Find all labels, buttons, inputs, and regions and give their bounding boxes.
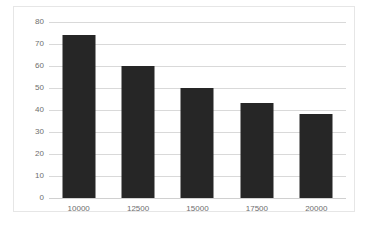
gridline [49, 198, 346, 199]
y-axis-tick-label: 40 [35, 106, 44, 114]
bar[interactable] [300, 114, 333, 198]
y-axis-tick-label: 30 [35, 128, 44, 136]
x-axis-tick-label: 10000 [68, 205, 90, 213]
bar-slot: 15000 [168, 22, 227, 198]
bar[interactable] [62, 35, 95, 198]
bar[interactable] [181, 88, 214, 198]
y-axis-tick-label: 0 [40, 194, 44, 202]
y-axis-tick-label: 80 [35, 18, 44, 26]
bar[interactable] [122, 66, 155, 198]
bar-slot: 12500 [108, 22, 167, 198]
x-axis-tick-label: 15000 [186, 205, 208, 213]
bars-group: 1000012500150001750020000 [49, 22, 346, 198]
y-axis-tick-label: 60 [35, 62, 44, 70]
bar[interactable] [240, 103, 273, 198]
x-axis-tick-label: 20000 [305, 205, 327, 213]
y-axis-tick-label: 20 [35, 150, 44, 158]
y-axis-tick-label: 70 [35, 40, 44, 48]
chart-frame: 01020304050607080 1000012500150001750020… [13, 6, 355, 212]
y-axis-tick-label: 50 [35, 84, 44, 92]
bar-slot: 20000 [287, 22, 346, 198]
bar-slot: 10000 [49, 22, 108, 198]
x-axis-tick-label: 17500 [246, 205, 268, 213]
bar-slot: 17500 [227, 22, 286, 198]
plot-area: 01020304050607080 1000012500150001750020… [49, 22, 346, 198]
x-axis-tick-label: 12500 [127, 205, 149, 213]
y-axis-tick-label: 10 [35, 172, 44, 180]
